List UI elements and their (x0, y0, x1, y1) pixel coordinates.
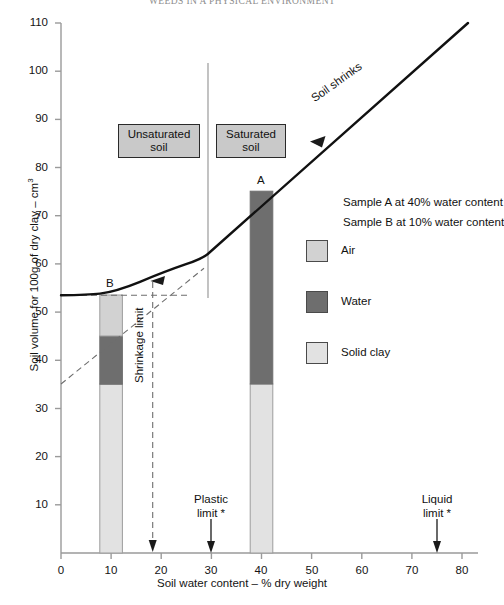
annotation-sample-b: Sample B at 10% water content (343, 216, 504, 228)
plastic-limit-arrowhead-icon (207, 541, 215, 553)
legend-swatch-air (306, 240, 328, 262)
annotation-sample-a: Sample A at 40% water content (343, 196, 503, 208)
zone-box-unsaturated: Unsaturated soil (118, 124, 200, 158)
bar-label-a: A (257, 174, 265, 186)
y-tick-10: 10 (18, 498, 48, 510)
x-tick-80: 80 (447, 564, 477, 576)
legend-label-solid-clay: Solid clay (341, 346, 390, 358)
bar-a-solid-clay (250, 384, 273, 553)
shrinkage-limit-arrowhead-icon (149, 540, 157, 552)
x-axis-label: Soil water content – % dry weight (0, 577, 484, 589)
zone-unsaturated-line1: Unsaturated (124, 128, 194, 141)
y-tick-30: 30 (18, 402, 48, 414)
legend-label-air: Air (341, 244, 355, 256)
liquid-limit-arrow (433, 519, 441, 553)
x-tick-40: 40 (246, 564, 276, 576)
x-tick-20: 20 (146, 564, 176, 576)
liquid-limit-arrowhead-icon (433, 541, 441, 553)
zone-box-saturated: Saturated soil (216, 124, 286, 158)
bar-sample-a (250, 191, 273, 553)
x-tick-60: 60 (347, 564, 377, 576)
zone-unsaturated-line2: soil (124, 141, 194, 154)
y-tick-110: 110 (18, 16, 48, 28)
x-tick-0: 0 (46, 564, 76, 576)
bar-b-solid-clay (100, 384, 123, 553)
bar-a-water (250, 191, 273, 384)
y-axis-ticks (55, 23, 61, 505)
y-axis-label: Soil volume for 100g of dry clay – cm3 (26, 150, 40, 400)
liquid-limit-label-text: Liquid limit * (413, 493, 461, 520)
plastic-limit-label: Plastic limit * (171, 493, 251, 520)
legend-label-water: Water (341, 295, 371, 307)
liquid-limit-label: Liquid limit * (397, 493, 477, 520)
shrinkage-limit-annotation: Shrinkage limit (133, 308, 145, 383)
x-tick-70: 70 (397, 564, 427, 576)
bar-sample-b (100, 295, 123, 553)
y-tick-20: 20 (18, 450, 48, 462)
bar-label-b: B (106, 277, 114, 289)
plastic-limit-arrow (207, 519, 215, 553)
legend-swatch-solid-clay (306, 342, 328, 364)
y-tick-90: 90 (18, 112, 48, 124)
y-tick-100: 100 (18, 64, 48, 76)
soil-shrinks-arrowhead-icon (310, 136, 326, 148)
x-tick-50: 50 (297, 564, 327, 576)
zone-saturated-line1: Saturated (222, 128, 280, 141)
x-tick-10: 10 (96, 564, 126, 576)
x-tick-30: 30 (196, 564, 226, 576)
bar-b-air (100, 295, 123, 336)
y-axis-label-superscript: 3 (26, 178, 35, 182)
plastic-limit-label-text: Plastic limit * (186, 493, 236, 520)
y-axis-label-text: Soil volume for 100g of dry clay – cm (28, 183, 40, 372)
zone-saturated-line2: soil (222, 141, 280, 154)
x-axis-ticks (61, 553, 462, 559)
legend-swatch-water (306, 291, 328, 313)
